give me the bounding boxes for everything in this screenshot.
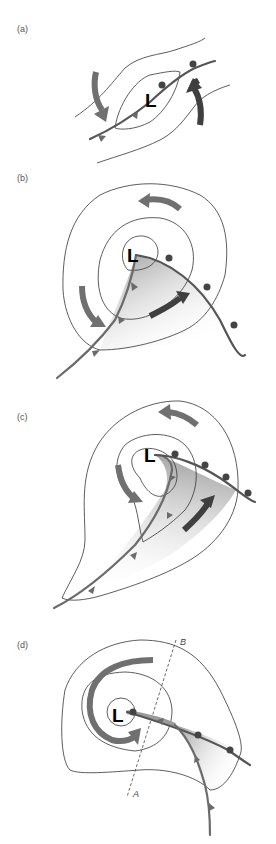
- warm-sector: [100, 255, 220, 350]
- flow-arrow-north: [145, 199, 180, 209]
- flow-arrow-south: [95, 72, 102, 110]
- arrowhead-icon: [158, 404, 171, 420]
- flow-arrow-west: [118, 465, 134, 498]
- cold-front-triangle-icon: [92, 350, 100, 357]
- arrowhead-icon: [138, 193, 150, 208]
- panel-label-a: (a): [17, 24, 28, 34]
- warm-front-semicircle-icon: [166, 255, 173, 262]
- flow-arrow-north: [194, 88, 201, 125]
- low-pressure-symbol: L: [144, 445, 156, 466]
- warm-front-semicircle-icon: [172, 451, 179, 458]
- flow-arrow-west: [82, 286, 97, 323]
- warm-sector: [80, 455, 236, 600]
- warm-front-semicircle-icon: [245, 490, 252, 497]
- warm-front-semicircle-icon: [202, 462, 209, 469]
- panel-c: (c) L: [17, 401, 255, 608]
- cold-front-triangle-icon: [98, 135, 106, 142]
- cross-section-label-a: A: [132, 789, 139, 799]
- panel-a: (a) L: [17, 24, 230, 163]
- cyclone-lifecycle-diagram: (a) L (b) L: [0, 0, 276, 844]
- warm-front-semicircle-icon: [231, 322, 238, 329]
- warm-front-semicircle-icon: [227, 747, 234, 754]
- low-pressure-symbol: L: [145, 90, 157, 111]
- panel-label-b: (b): [17, 173, 28, 183]
- warm-front-semicircle-icon: [195, 732, 202, 739]
- low-pressure-symbol: L: [112, 705, 124, 726]
- panel-label-d: (d): [17, 640, 28, 650]
- panel-b: (b) L: [17, 173, 245, 378]
- warm-front-semicircle-icon: [130, 709, 137, 716]
- panel-d: (d) B A L: [17, 637, 250, 835]
- cold-front-triangle-icon: [209, 803, 215, 811]
- low-pressure-symbol: L: [127, 245, 139, 266]
- warm-front-semicircle-icon: [223, 474, 230, 481]
- panel-label-c: (c): [17, 412, 28, 422]
- flow-arrow-north: [168, 412, 197, 425]
- warm-front-semicircle-icon: [159, 82, 166, 89]
- warm-sector: [175, 725, 245, 790]
- cross-section-label-b: B: [180, 637, 186, 647]
- warm-front-semicircle-icon: [190, 61, 197, 68]
- warm-front-semicircle-icon: [204, 284, 211, 291]
